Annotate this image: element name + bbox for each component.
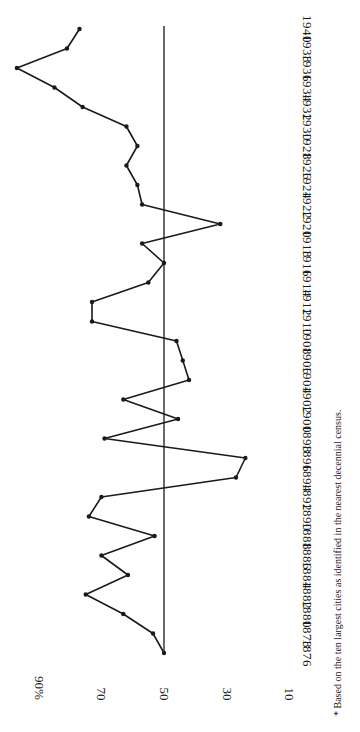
data-point (90, 319, 94, 323)
data-point (77, 27, 81, 31)
data-point (124, 124, 128, 128)
data-point (135, 144, 139, 148)
rotated-line-chart: 1876187818801882188418861888189018921894… (0, 0, 360, 732)
data-point (174, 339, 178, 343)
data-point (187, 378, 191, 382)
data-point (15, 66, 19, 70)
data-point (181, 358, 185, 362)
data-point (152, 534, 156, 538)
percent-tick-label: 50 (156, 676, 172, 712)
data-point (140, 241, 144, 245)
data-point (90, 300, 94, 304)
data-point (218, 222, 222, 226)
data-point (146, 280, 150, 284)
series-line (17, 29, 246, 653)
data-point (87, 514, 91, 518)
data-point (99, 495, 103, 499)
data-point (52, 85, 56, 89)
data-point (65, 46, 69, 50)
data-point (102, 436, 106, 440)
data-point (99, 553, 103, 557)
percent-tick-label: 70 (93, 676, 109, 712)
percent-tick-label: 30 (219, 676, 235, 712)
data-point (176, 417, 180, 421)
data-point (80, 105, 84, 109)
data-point (162, 651, 166, 655)
data-point (126, 573, 130, 577)
data-point (243, 456, 247, 460)
data-point (84, 592, 88, 596)
year-tick-label: 1940 (299, 9, 315, 49)
data-point (121, 612, 125, 616)
data-point (234, 475, 238, 479)
data-point (162, 261, 166, 265)
percent-tick-label: 10 (281, 676, 297, 712)
footnote: * Based on the ten largest cities as ide… (332, 410, 343, 716)
data-point (121, 397, 125, 401)
data-point (140, 202, 144, 206)
data-point (124, 163, 128, 167)
data-point (135, 183, 139, 187)
percent-tick-label: 90% (31, 670, 47, 706)
data-point (151, 631, 155, 635)
